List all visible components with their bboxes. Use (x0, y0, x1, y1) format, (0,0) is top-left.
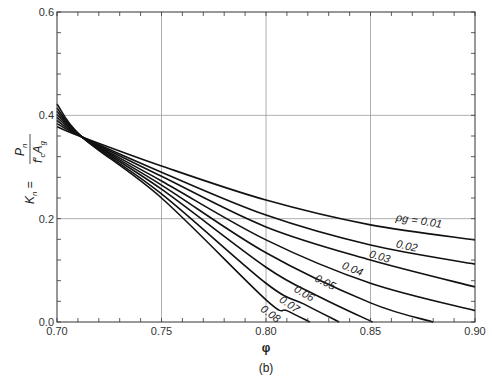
x-tick-label: 0.85 (360, 325, 381, 337)
curve-label: ρg = 0.01 (394, 211, 443, 230)
chart: 0.700.750.800.850.900.00.20.40.6 ρg = 0.… (0, 0, 492, 380)
curve-rho-0.06 (57, 111, 373, 322)
svg-text:Pn: Pn (13, 143, 29, 156)
y-tick-label: 0.6 (39, 6, 54, 18)
y-tick-label: 0.2 (39, 213, 54, 225)
svg-text:Kn =: Kn = (23, 181, 39, 204)
y-tick-label: 0.4 (39, 109, 54, 121)
x-tick-label: 0.90 (464, 325, 485, 337)
y-axis-title: Kn = Pn f′cAg (13, 134, 47, 204)
curve-label: 0.05 (313, 272, 338, 293)
curve-label: 0.04 (340, 259, 364, 278)
curve-labels: ρg = 0.010.020.030.040.050.060.070.08 (259, 211, 443, 326)
x-tick-label: 0.80 (255, 325, 276, 337)
grid-lines (57, 12, 475, 322)
x-axis-title: φ (262, 341, 271, 355)
svg-text:f′cAg: f′cAg (31, 140, 47, 163)
y-tick-label: 0.0 (39, 316, 54, 328)
axis-ticks: 0.700.750.800.850.900.00.20.40.6 (39, 6, 486, 337)
figure-caption: (b) (259, 361, 274, 375)
x-tick-label: 0.75 (151, 325, 172, 337)
